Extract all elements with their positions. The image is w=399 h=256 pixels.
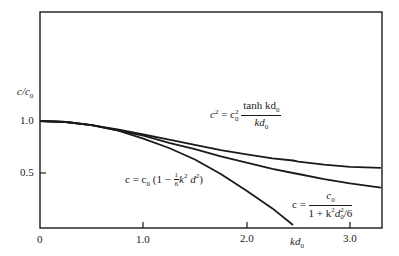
ann2-b: (1 − [150,173,174,185]
x-tick-3: 3.0 [343,233,357,244]
ann3-num-sub: 0 [331,196,335,204]
x-tick-0: 0 [37,234,43,245]
ann1-numerator: tanh kd0 [241,100,281,116]
ann1-num-text: tanh kd [243,99,276,111]
ann2-e: ) [199,173,203,185]
y-axis-label-text: c/c [17,85,30,97]
x-axis-label-sub: 0 [300,242,304,250]
ann1-den-sub: 0 [265,123,269,131]
y-axis-label: c/c0 [17,86,33,100]
x-axis-label: kd0 [290,236,304,250]
ann3-denominator: 1 + k2d20/6 [309,206,353,221]
y-axis-ticks [40,121,46,173]
ann1-c0-sub: 0 [235,116,239,123]
annotation-tanh: c2 = c20 tanh kd0 kd0 [210,100,281,131]
ann3-numerator: c0 [309,190,353,206]
ann3-den-a: 1 + k [309,207,332,219]
annotation-pade: c = c0 1 + k2d20/6 [292,190,352,221]
ann2-d: d [187,173,195,185]
ann3-den-c: /6 [344,207,353,219]
ann3-lhs: c = [292,198,309,210]
ann1-denominator: kd0 [241,116,281,131]
x-tick-2: 2.0 [240,233,254,244]
ann2-a: c = c [125,173,146,185]
y-tick-05: 0.5 [20,167,34,178]
ann1-c0-scripts: 20 [235,109,239,123]
y-tick-1: 1.0 [20,115,34,126]
ann1-den-text: kd [254,116,264,128]
x-axis-label-text: kd [290,235,300,247]
y-axis-label-sub: 0 [30,92,34,100]
x-axis-ticks [143,222,350,228]
ann1-num-sub: 0 [276,106,280,114]
ann1-eq: = c [218,108,235,120]
ann3-fraction: c0 1 + k2d20/6 [309,190,353,221]
annotation-truncated: c = c0 (1 − 16k2 d2) [125,172,203,188]
x-tick-1: 1.0 [136,234,150,245]
ann1-fraction: tanh kd0 kd0 [241,100,281,131]
